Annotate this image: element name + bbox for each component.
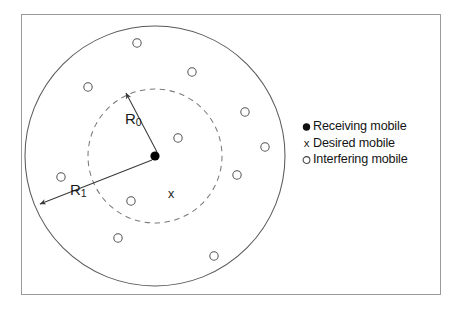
interfering-mobile-marker bbox=[84, 83, 92, 91]
figure-page: R0 R1 x Receiving mobile x Desired mobil… bbox=[0, 0, 462, 312]
r1-arrow bbox=[40, 160, 152, 204]
interfering-mobile-marker bbox=[241, 108, 249, 116]
desired-mobile-marker: x bbox=[168, 187, 174, 201]
radius-label-r1-base: R bbox=[70, 181, 81, 198]
legend-item-desired-mobile: x Desired mobile bbox=[300, 135, 432, 152]
radius-label-r0-base: R bbox=[125, 110, 136, 127]
radius-label-r0: R0 bbox=[125, 110, 142, 128]
interfering-mobile-markers bbox=[57, 39, 269, 260]
receiving-mobile-marker bbox=[150, 151, 159, 160]
interfering-mobile-marker bbox=[174, 134, 182, 142]
interfering-mobile-marker bbox=[133, 39, 141, 47]
interfering-mobile-marker bbox=[261, 143, 269, 151]
x-marker-icon: x bbox=[300, 135, 313, 152]
interfering-mobile-marker bbox=[188, 68, 196, 76]
interfering-mobile-marker bbox=[127, 197, 135, 205]
interfering-mobile-marker bbox=[57, 173, 65, 181]
radius-label-r0-subscript: 0 bbox=[136, 116, 142, 128]
legend-item-receiving-mobile: Receiving mobile bbox=[300, 118, 432, 135]
open-circle-marker-icon bbox=[300, 153, 313, 166]
legend-label-interfering-mobile: Interfering mobile bbox=[313, 151, 408, 168]
legend-item-interfering-mobile: Interfering mobile bbox=[300, 151, 432, 168]
interfering-mobile-marker bbox=[210, 252, 218, 260]
legend-label-receiving-mobile: Receiving mobile bbox=[313, 118, 407, 135]
radius-label-r1-subscript: 1 bbox=[81, 187, 87, 199]
legend-label-desired-mobile: Desired mobile bbox=[313, 135, 395, 152]
interfering-mobile-marker bbox=[114, 234, 122, 242]
filled-circle-marker-icon bbox=[300, 120, 313, 133]
radius-label-r1: R1 bbox=[70, 181, 87, 199]
interfering-mobile-marker bbox=[233, 171, 241, 179]
legend: Receiving mobile x Desired mobile Interf… bbox=[300, 118, 432, 168]
